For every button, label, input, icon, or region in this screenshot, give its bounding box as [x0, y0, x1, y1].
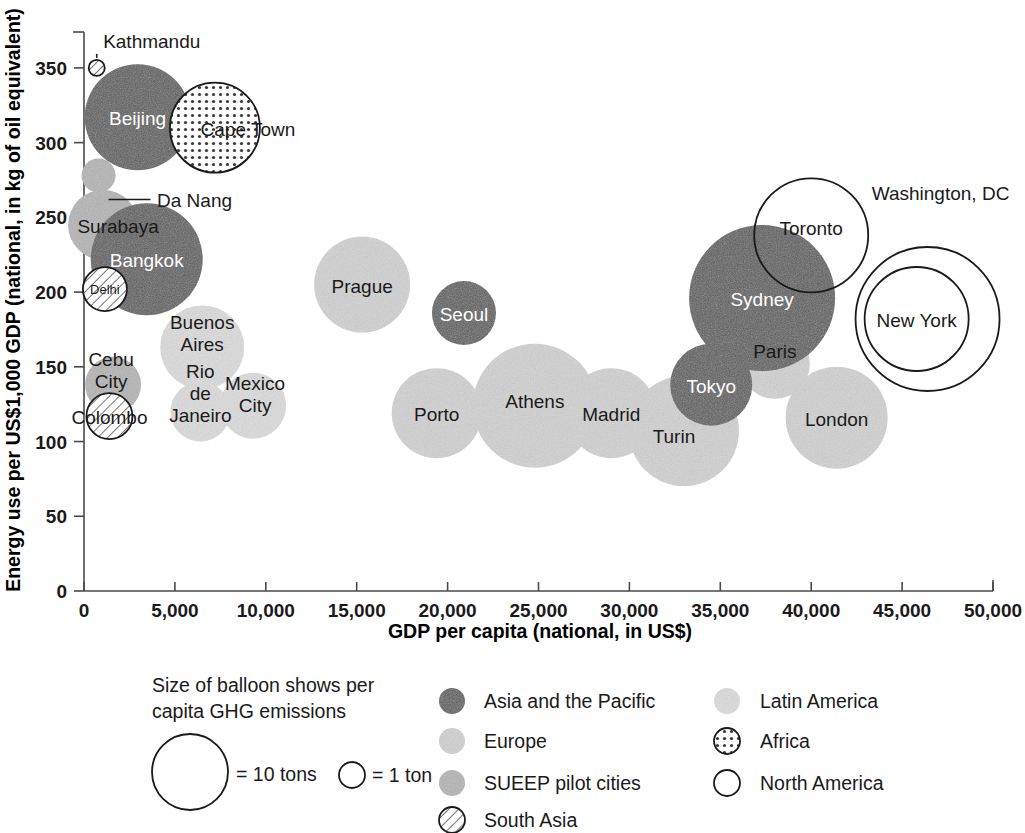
bubble-label-beijing: Beijing: [109, 108, 166, 129]
bubble-label-madrid: Madrid: [582, 404, 640, 425]
bubble-label-mexico-city: Mexico: [225, 373, 285, 394]
y-tick-label: 0: [56, 581, 67, 602]
legend-label-south-asia: South Asia: [484, 809, 577, 831]
bubble-label-sydney: Sydney: [730, 289, 794, 310]
bubble-label-washington-dc: Washington, DC: [872, 183, 1010, 204]
bubble-label-seoul: Seoul: [440, 304, 489, 325]
legend-swatch-europe[interactable]: [439, 728, 465, 754]
legend-entries: Asia and the PacificEuropeSUEEP pilot ci…: [439, 688, 884, 833]
bubble-label-new-york: New York: [877, 310, 958, 331]
legend-label-sueep: SUEEP pilot cities: [484, 772, 641, 794]
bubble-label-athens: Athens: [505, 391, 564, 412]
legend-swatch-africa[interactable]: [714, 728, 740, 754]
x-tick-label: 40,000: [782, 600, 840, 621]
legend-swatch-sueep[interactable]: [439, 770, 465, 796]
legend: Size of balloon shows per capita GHG emi…: [152, 674, 884, 833]
legend-swatch-north-america[interactable]: [714, 770, 740, 796]
bubble-label-delhi: Delhi: [90, 282, 120, 297]
bubble-chart-svg: KathmanduBeijingCape TownDa NangSurabaya…: [0, 0, 1025, 833]
x-tick-label: 20,000: [419, 600, 477, 621]
legend-label-europe: Europe: [484, 730, 547, 752]
y-tick-label: 250: [35, 207, 67, 228]
x-tick-label: 25,000: [509, 600, 567, 621]
bubble-label-kathmandu: Kathmandu: [103, 31, 200, 52]
legend-size-1ton-label: = 1 ton: [372, 764, 432, 786]
y-tick-label: 200: [35, 282, 67, 303]
x-axis-title: GDP per capita (national, in US$): [388, 620, 692, 642]
legend-size-1ton-circle: [339, 762, 365, 788]
bubble-label-paris: Paris: [753, 341, 796, 362]
x-tick-label: 0: [79, 600, 90, 621]
y-tick-label: 300: [35, 133, 67, 154]
bubble-label-cebu-city: City: [95, 371, 128, 392]
bubble-label-colombo: Colombo: [71, 407, 147, 428]
legend-swatch-latin[interactable]: [714, 688, 740, 714]
legend-size-note-line-1: Size of balloon shows per: [152, 674, 375, 696]
bubble-label-mexico-city: City: [239, 395, 272, 416]
legend-swatch-south-asia[interactable]: [439, 807, 465, 833]
bubble-label-london: London: [805, 409, 868, 430]
bubble-label-bangkok: Bangkok: [110, 250, 184, 271]
legend-swatch-asia-pacific[interactable]: [439, 688, 465, 714]
y-tick-label: 350: [35, 58, 67, 79]
x-tick-label: 50,000: [964, 600, 1022, 621]
legend-size-10tons-label: = 10 tons: [236, 763, 317, 785]
bubble-label-da-nang: Da Nang: [157, 190, 232, 211]
x-tick-label: 15,000: [328, 600, 386, 621]
chart-figure: KathmanduBeijingCape TownDa NangSurabaya…: [0, 0, 1025, 833]
y-tick-label: 100: [35, 432, 67, 453]
bubble-label-turin: Turin: [653, 426, 696, 447]
bubble-label-surabaya: Surabaya: [77, 216, 159, 237]
bubble-label-buenos-aires: Aires: [181, 334, 224, 355]
bubble-da-nang[interactable]: [82, 159, 116, 193]
x-tick-label: 30,000: [600, 600, 658, 621]
bubble-label-cape-town: Cape Town: [201, 119, 296, 140]
bubble-label-tokyo: Tokyo: [686, 376, 736, 397]
legend-size-10tons-circle: [152, 734, 228, 810]
bubble-label-porto: Porto: [414, 404, 459, 425]
bubble-label-buenos-aires: Buenos: [170, 312, 234, 333]
y-tick-label: 50: [46, 506, 67, 527]
x-tick-label: 5,000: [151, 600, 199, 621]
legend-label-africa: Africa: [760, 730, 810, 752]
bubble-label-prague: Prague: [332, 276, 393, 297]
legend-label-asia-pacific: Asia and the Pacific: [484, 690, 656, 712]
bubble-label-toronto: Toronto: [780, 218, 843, 239]
x-tick-label: 10,000: [237, 600, 295, 621]
x-tick-label: 35,000: [691, 600, 749, 621]
bubble-label-rio-de-janeiro: Janeiro: [169, 405, 231, 426]
bubble-label-rio-de-janeiro: de: [190, 383, 211, 404]
legend-size-note-line-2: capita GHG emissions: [152, 700, 346, 722]
bubble-kathmandu[interactable]: [89, 60, 105, 76]
bubble-label-cebu-city: Cebu: [88, 349, 133, 370]
legend-label-north-america: North America: [760, 772, 884, 794]
y-tick-label: 150: [35, 357, 67, 378]
bubble-label-rio-de-janeiro: Rio: [186, 361, 215, 382]
x-tick-label: 45,000: [873, 600, 931, 621]
legend-label-latin: Latin America: [760, 690, 878, 712]
y-axis-title: Energy use per US$1,000 GDP (national, i…: [2, 8, 24, 592]
